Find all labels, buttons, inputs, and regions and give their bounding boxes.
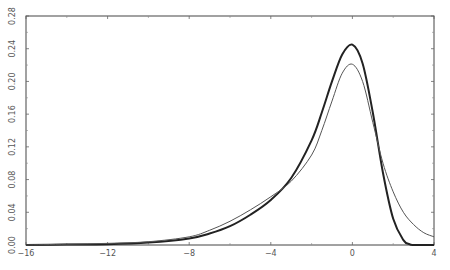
x-axis-ticks: −16−12−8−404 — [18, 16, 437, 258]
y-axis-ticks: 0.000.040.080.120.160.200.240.28 — [8, 7, 434, 254]
plot-frame — [26, 16, 434, 245]
series-lines — [26, 44, 434, 245]
y-tick-label: 0.04 — [8, 203, 17, 221]
density-chart: −16−12−8−404 0.000.040.080.120.160.200.2… — [0, 0, 450, 270]
y-tick-label: 0.20 — [8, 73, 17, 91]
y-tick-label: 0.28 — [8, 7, 17, 25]
x-tick-label: 4 — [431, 249, 436, 258]
y-tick-label: 0.12 — [8, 138, 17, 156]
thick-density-curve — [26, 44, 434, 245]
y-tick-label: 0.00 — [8, 236, 17, 254]
x-tick-label: −8 — [183, 249, 195, 258]
thin-density-curve — [26, 64, 434, 245]
y-tick-label: 0.24 — [8, 40, 17, 58]
x-tick-label: −16 — [18, 249, 35, 258]
x-tick-label: −4 — [265, 249, 277, 258]
y-tick-label: 0.16 — [8, 105, 17, 123]
y-tick-label: 0.08 — [8, 171, 17, 189]
x-tick-label: 0 — [350, 249, 355, 258]
x-tick-label: −12 — [99, 249, 116, 258]
